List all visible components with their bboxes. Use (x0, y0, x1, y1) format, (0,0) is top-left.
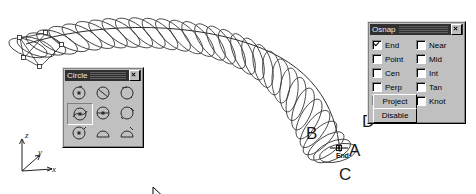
osnap-option-int[interactable]: Int (416, 66, 460, 80)
screenshot-root: B C D A End z y x Circle (0, 0, 476, 194)
circle-toolbar-titlebar[interactable]: Circle (65, 70, 141, 81)
tool-circle-around-curve[interactable] (67, 103, 93, 125)
osnap-option-label: End (385, 41, 399, 50)
axis-label-x: x (52, 164, 56, 174)
axis-gizmo-icon (8, 131, 64, 187)
osnap-option-point[interactable]: Point (372, 52, 416, 66)
annotation-label-b: B (306, 125, 317, 142)
axis-label-y: y (38, 147, 42, 157)
osnap-option-mid[interactable]: Mid (416, 52, 460, 66)
tool-circle-fit-points[interactable] (91, 123, 115, 143)
osnap-option-near[interactable]: Near (416, 38, 460, 52)
osnap-option-label: Knot (429, 97, 445, 106)
tool-circle-tangent-radius[interactable] (67, 123, 91, 143)
osnap-option-label: Perp (385, 83, 402, 92)
osnap-option-tan[interactable]: Tan (416, 80, 460, 94)
checkbox-icon[interactable] (416, 54, 426, 64)
osnap-option-label: Mid (429, 55, 442, 64)
osnap-titlebar[interactable]: Osnap (370, 24, 463, 35)
checkbox-icon[interactable] (416, 96, 426, 106)
circle-tool-grid[interactable] (67, 83, 139, 143)
disable-button[interactable]: Disable (373, 108, 417, 123)
axis-gizmo: z y x (8, 131, 64, 187)
tool-circle-2-point[interactable] (115, 83, 139, 103)
osnap-option-knot[interactable]: Knot (416, 94, 460, 108)
osnap-option-label: Near (429, 41, 446, 50)
tool-circle-diameter[interactable] (91, 83, 115, 103)
tool-circle-tangent-tangent[interactable] (115, 103, 139, 123)
osnap-option-label: Int (429, 69, 438, 78)
osnap-end-tooltip: End (336, 152, 349, 159)
osnap-panel[interactable]: Osnap End Near Point Mid (367, 21, 466, 124)
osnap-option-label: Point (385, 55, 403, 64)
circle-toolbar-panel[interactable]: Circle (62, 67, 144, 148)
osnap-option-end[interactable]: End (372, 38, 416, 52)
checkbox-icon[interactable] (416, 40, 426, 50)
checkbox-icon[interactable] (372, 82, 382, 92)
tool-circle-deformable[interactable] (115, 123, 139, 143)
tool-circle-3-point[interactable] (91, 103, 115, 123)
checkbox-icon[interactable] (372, 40, 382, 50)
osnap-option-perp[interactable]: Perp (372, 80, 416, 94)
checkbox-icon[interactable] (416, 82, 426, 92)
osnap-title: Osnap (372, 24, 396, 35)
checkbox-icon[interactable] (416, 68, 426, 78)
close-icon[interactable] (129, 70, 140, 81)
checkbox-icon[interactable] (372, 54, 382, 64)
annotation-label-a: A (349, 142, 360, 159)
osnap-option-label: Tan (429, 83, 442, 92)
titlebar-grip (90, 72, 126, 79)
checkbox-icon[interactable] (372, 68, 382, 78)
project-button[interactable]: Project (373, 94, 417, 109)
titlebar-grip (399, 26, 448, 33)
close-icon[interactable] (451, 24, 462, 35)
axis-label-z: z (25, 130, 29, 140)
endpoint-dot (337, 146, 340, 149)
annotation-label-c: C (339, 166, 351, 183)
osnap-option-cen[interactable]: Cen (372, 66, 416, 80)
osnap-option-label: Cen (385, 69, 400, 78)
tool-circle-center-radius[interactable] (67, 83, 91, 103)
circle-toolbar-title: Circle (67, 70, 87, 81)
